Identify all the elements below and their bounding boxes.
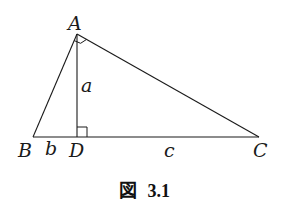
right-triangle-diagram: A B D C a b c 図 3.1 xyxy=(0,0,288,203)
vertex-label-a: A xyxy=(66,12,82,34)
right-angle-marker-a xyxy=(74,39,86,43)
vertex-label-b: B xyxy=(17,139,32,161)
segment-label-a: a xyxy=(81,74,92,96)
edge-ab xyxy=(33,34,77,137)
vertex-label-d: D xyxy=(68,139,84,161)
caption-number: 3.1 xyxy=(148,181,171,201)
vertex-label-c: C xyxy=(253,139,268,161)
caption-prefix: 図 xyxy=(119,181,137,201)
segment-label-b: b xyxy=(45,137,57,159)
right-angle-marker-d xyxy=(77,127,87,137)
segment-label-c: c xyxy=(164,139,175,161)
figure-caption: 図 3.1 xyxy=(119,181,170,201)
edge-ac xyxy=(77,34,259,137)
